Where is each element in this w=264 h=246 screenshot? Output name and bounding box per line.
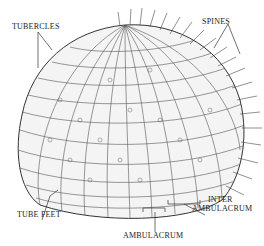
label-inter-ambulacrum: AMBULACRUM	[192, 204, 252, 213]
label-ambulacrum: AMBULACRUM	[123, 231, 183, 240]
label-tubercles: TUBERCLES	[12, 22, 60, 31]
sea-urchin-diagram: TUBERCLES SPINES TUBE FEET INTER AMBULAC…	[0, 0, 264, 246]
label-tube-feet: TUBE FEET	[17, 210, 61, 219]
label-inter-line1: INTER	[208, 195, 233, 204]
label-spines: SPINES	[202, 17, 230, 26]
